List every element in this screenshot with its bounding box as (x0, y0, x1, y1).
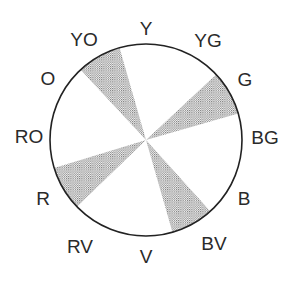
hue-label-g: G (238, 69, 253, 90)
hue-label-bv: BV (201, 233, 227, 254)
hue-label-rv: RV (67, 236, 93, 257)
shaded-wedges (54, 48, 238, 233)
hue-label-r: R (36, 188, 50, 209)
hue-label-yo: YO (70, 29, 97, 50)
hue-label-bg: BG (251, 127, 278, 148)
hue-label-yg: YG (194, 30, 221, 51)
hue-label-v: V (140, 246, 153, 267)
color-wheel-diagram: YYGGBGBBVVRVRROOYO (0, 0, 293, 281)
hue-label-y: Y (140, 18, 153, 39)
hue-label-ro: RO (15, 126, 44, 147)
hue-label-o: O (41, 68, 56, 89)
hue-label-b: B (238, 188, 251, 209)
